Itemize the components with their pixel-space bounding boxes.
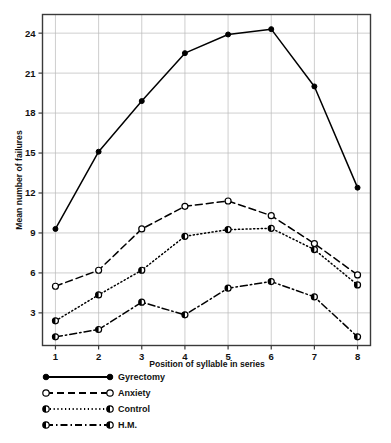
data-point-marker xyxy=(139,226,145,232)
y-axis-tick-label: 12 xyxy=(25,187,36,198)
legend-marker-left xyxy=(43,374,49,380)
data-point-marker xyxy=(182,51,187,56)
legend-label: Anxiety xyxy=(118,388,151,398)
legend-marker-right xyxy=(107,406,113,412)
data-point-marker xyxy=(139,299,145,305)
x-axis-tick-label: 6 xyxy=(269,351,274,362)
legend-marker-right xyxy=(107,422,113,428)
y-axis-tick-label: 21 xyxy=(25,68,36,79)
legend-marker-right xyxy=(107,390,113,396)
data-point-marker xyxy=(96,292,102,298)
y-axis-title: Mean number of failures xyxy=(14,130,24,230)
data-point-marker xyxy=(225,227,231,233)
y-axis-tick-label: 3 xyxy=(30,307,35,318)
data-point-marker xyxy=(226,32,231,37)
legend-label: Control xyxy=(118,404,150,414)
data-point-marker xyxy=(311,247,317,253)
data-point-marker xyxy=(311,241,317,247)
data-point-marker xyxy=(355,185,360,190)
data-point-marker xyxy=(182,233,188,239)
x-axis-title: Position of syllable in series xyxy=(149,359,265,369)
y-axis-tick-label: 24 xyxy=(25,28,36,39)
data-point-marker xyxy=(225,198,231,204)
data-point-marker xyxy=(355,282,361,288)
legend-marker-right xyxy=(107,374,113,380)
data-point-marker xyxy=(268,213,274,219)
data-point-marker xyxy=(182,203,188,209)
data-point-marker xyxy=(225,285,231,291)
x-axis-tick-label: 7 xyxy=(312,351,317,362)
data-point-marker xyxy=(355,334,361,340)
data-point-marker xyxy=(268,225,274,231)
data-point-marker xyxy=(139,267,145,273)
data-point-marker xyxy=(355,272,361,278)
legend-label: H.M. xyxy=(118,420,137,430)
data-point-marker xyxy=(268,279,274,285)
x-axis-tick-label: 1 xyxy=(53,351,59,362)
data-point-marker xyxy=(182,312,188,318)
y-axis-tick-label: 9 xyxy=(30,227,35,238)
x-axis-tick-label: 3 xyxy=(139,351,144,362)
data-point-marker xyxy=(312,84,317,89)
data-point-marker xyxy=(96,327,102,333)
data-point-marker xyxy=(96,267,102,273)
x-axis-tick-label: 2 xyxy=(96,351,101,362)
data-point-marker xyxy=(269,27,274,32)
data-point-marker xyxy=(96,149,101,154)
data-point-marker xyxy=(52,318,58,324)
legend-marker-left xyxy=(43,406,49,412)
data-point-marker xyxy=(52,283,58,289)
data-point-marker xyxy=(139,99,144,104)
data-point-marker xyxy=(311,294,317,300)
chart-figure: 3691215182124 12345678 Mean number of fa… xyxy=(0,0,391,443)
legend-label: Gyrectomy xyxy=(118,372,165,382)
y-axis-tick-label: 15 xyxy=(25,147,36,158)
legend-marker-left xyxy=(43,390,49,396)
y-axis-tick-label: 18 xyxy=(25,107,36,118)
legend-marker-left xyxy=(43,422,49,428)
data-point-marker xyxy=(52,334,58,340)
data-point-marker xyxy=(53,226,58,231)
line-chart: 3691215182124 12345678 Mean number of fa… xyxy=(0,0,391,443)
x-axis-tick-label: 8 xyxy=(355,351,360,362)
y-axis-tick-label: 6 xyxy=(30,267,35,278)
